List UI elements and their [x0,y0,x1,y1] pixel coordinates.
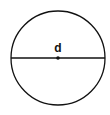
circle-diameter-diagram: d [0,0,110,115]
diameter-label: d [54,41,61,55]
center-point [56,56,60,60]
